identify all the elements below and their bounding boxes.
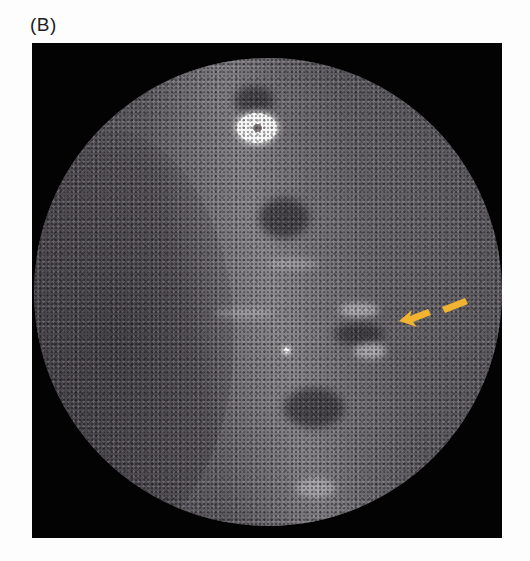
- ct-image-frame: [32, 43, 502, 538]
- arrow-annotation-icon: [398, 293, 478, 343]
- ct-field-of-view: [34, 58, 502, 526]
- image-noise: [34, 58, 502, 526]
- panel-label: (B): [30, 14, 57, 36]
